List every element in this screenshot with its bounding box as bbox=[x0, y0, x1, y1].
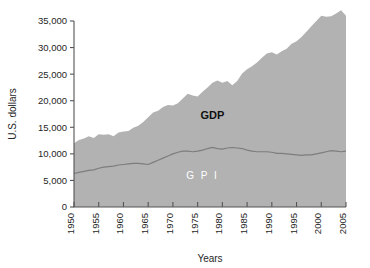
x-tick-label: 1960 bbox=[114, 213, 125, 234]
y-tick-label: 5,000 bbox=[43, 175, 67, 186]
x-tick-label: 1950 bbox=[65, 213, 76, 234]
x-tick-label: 1980 bbox=[213, 213, 224, 234]
y-tick-label: 25,000 bbox=[38, 69, 67, 80]
y-tick-label: 15,000 bbox=[38, 122, 67, 133]
y-axis-title: U.S. dollars bbox=[7, 88, 18, 140]
x-tick-label: 1985 bbox=[238, 213, 249, 234]
x-tick-label: 2005 bbox=[337, 213, 348, 234]
y-tick-label: 35,000 bbox=[38, 15, 67, 26]
y-tick-label: 20,000 bbox=[38, 95, 67, 106]
x-tick-label: 1970 bbox=[164, 213, 175, 234]
x-axis-title: Years bbox=[197, 253, 222, 264]
gpi-series-label: G P I bbox=[186, 170, 219, 181]
x-tick-label: 1975 bbox=[189, 213, 200, 234]
x-tick-label: 1995 bbox=[288, 213, 299, 234]
y-tick-label: 10,000 bbox=[38, 148, 67, 159]
x-tick-label: 2000 bbox=[312, 213, 323, 234]
gdp-series-label: GDP bbox=[201, 109, 225, 121]
x-tick-label: 1965 bbox=[139, 213, 150, 234]
chart-container: 05,00010,00015,00020,00025,00030,00035,0… bbox=[0, 0, 370, 268]
x-tick-label: 1955 bbox=[90, 213, 101, 234]
x-tick-label: 1990 bbox=[263, 213, 274, 234]
y-tick-label: 30,000 bbox=[38, 42, 67, 53]
gdp-gpi-area-chart: 05,00010,00015,00020,00025,00030,00035,0… bbox=[0, 0, 370, 268]
y-tick-label: 0 bbox=[62, 201, 67, 212]
